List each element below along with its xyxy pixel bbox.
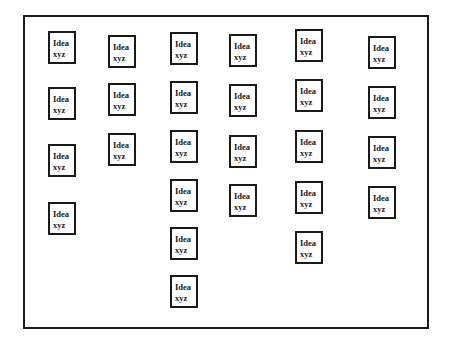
- idea-card-subtitle: xyz: [175, 197, 196, 208]
- idea-card-title: Idea: [373, 143, 394, 154]
- idea-card[interactable]: Ideaxyz: [229, 34, 257, 67]
- idea-card-title: Idea: [53, 38, 74, 49]
- idea-card-subtitle: xyz: [300, 47, 321, 58]
- idea-card-title: Idea: [373, 93, 394, 104]
- idea-card[interactable]: Ideaxyz: [108, 83, 136, 116]
- idea-card-subtitle: xyz: [175, 245, 196, 256]
- idea-card-subtitle: xyz: [113, 53, 134, 64]
- idea-card-subtitle: xyz: [175, 148, 196, 159]
- idea-card-title: Idea: [373, 193, 394, 204]
- idea-card-subtitle: xyz: [175, 99, 196, 110]
- idea-card[interactable]: Ideaxyz: [229, 84, 257, 117]
- idea-card[interactable]: Ideaxyz: [368, 136, 396, 169]
- idea-card-subtitle: xyz: [175, 50, 196, 61]
- idea-card-title: Idea: [53, 94, 74, 105]
- idea-card-title: Idea: [234, 41, 255, 52]
- idea-card[interactable]: Ideaxyz: [170, 81, 198, 114]
- idea-card-title: Idea: [113, 140, 134, 151]
- idea-card[interactable]: Ideaxyz: [229, 135, 257, 168]
- idea-card[interactable]: Ideaxyz: [170, 227, 198, 260]
- idea-card-subtitle: xyz: [373, 154, 394, 165]
- idea-card-title: Idea: [113, 90, 134, 101]
- idea-card[interactable]: Ideaxyz: [108, 35, 136, 68]
- idea-card[interactable]: Ideaxyz: [48, 144, 76, 177]
- idea-card-title: Idea: [175, 234, 196, 245]
- idea-card[interactable]: Ideaxyz: [295, 130, 323, 163]
- idea-card-title: Idea: [234, 191, 255, 202]
- idea-card-title: Idea: [300, 36, 321, 47]
- idea-card-title: Idea: [53, 151, 74, 162]
- idea-card[interactable]: Ideaxyz: [295, 29, 323, 62]
- idea-card-subtitle: xyz: [234, 202, 255, 213]
- idea-card-subtitle: xyz: [300, 148, 321, 159]
- idea-card[interactable]: Ideaxyz: [48, 31, 76, 64]
- idea-card[interactable]: Ideaxyz: [368, 36, 396, 69]
- idea-card-title: Idea: [234, 142, 255, 153]
- idea-card-subtitle: xyz: [53, 162, 74, 173]
- idea-card[interactable]: Ideaxyz: [170, 179, 198, 212]
- idea-card-title: Idea: [175, 39, 196, 50]
- idea-card-title: Idea: [175, 137, 196, 148]
- idea-card-subtitle: xyz: [300, 97, 321, 108]
- idea-card-title: Idea: [300, 137, 321, 148]
- idea-card-subtitle: xyz: [373, 54, 394, 65]
- idea-card[interactable]: Ideaxyz: [48, 87, 76, 120]
- idea-card[interactable]: Ideaxyz: [295, 231, 323, 264]
- idea-card-title: Idea: [175, 88, 196, 99]
- idea-card[interactable]: Ideaxyz: [295, 79, 323, 112]
- idea-card-subtitle: xyz: [373, 204, 394, 215]
- idea-card-subtitle: xyz: [113, 101, 134, 112]
- idea-card-title: Idea: [113, 42, 134, 53]
- idea-card[interactable]: Ideaxyz: [170, 275, 198, 308]
- idea-card[interactable]: Ideaxyz: [368, 86, 396, 119]
- idea-card-subtitle: xyz: [300, 199, 321, 210]
- idea-card-title: Idea: [300, 188, 321, 199]
- idea-card-subtitle: xyz: [113, 151, 134, 162]
- idea-card-subtitle: xyz: [300, 249, 321, 260]
- idea-card-title: Idea: [53, 209, 74, 220]
- idea-card-title: Idea: [175, 186, 196, 197]
- idea-card-title: Idea: [300, 86, 321, 97]
- idea-card-subtitle: xyz: [175, 293, 196, 304]
- idea-card-subtitle: xyz: [234, 102, 255, 113]
- idea-card[interactable]: Ideaxyz: [108, 133, 136, 166]
- idea-card[interactable]: Ideaxyz: [48, 202, 76, 235]
- idea-card[interactable]: Ideaxyz: [229, 184, 257, 217]
- idea-card-subtitle: xyz: [234, 52, 255, 63]
- idea-card-subtitle: xyz: [53, 105, 74, 116]
- idea-card-title: Idea: [234, 91, 255, 102]
- idea-card[interactable]: Ideaxyz: [295, 181, 323, 214]
- idea-card-subtitle: xyz: [373, 104, 394, 115]
- idea-card[interactable]: Ideaxyz: [170, 32, 198, 65]
- idea-card-subtitle: xyz: [53, 220, 74, 231]
- idea-card-title: Idea: [300, 238, 321, 249]
- idea-card-title: Idea: [373, 43, 394, 54]
- idea-card-subtitle: xyz: [234, 153, 255, 164]
- idea-card-subtitle: xyz: [53, 49, 74, 60]
- idea-card-title: Idea: [175, 282, 196, 293]
- idea-card[interactable]: Ideaxyz: [170, 130, 198, 163]
- idea-card[interactable]: Ideaxyz: [368, 186, 396, 219]
